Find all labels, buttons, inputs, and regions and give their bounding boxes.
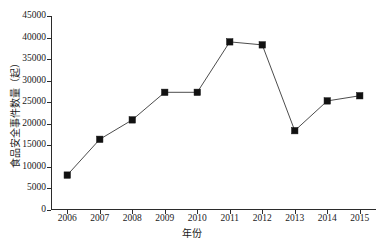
data-point-marker: [292, 127, 298, 133]
data-point-marker: [259, 42, 265, 48]
data-point-marker: [194, 89, 200, 95]
data-point-marker: [357, 93, 363, 99]
y-axis-tick-label: 40000: [12, 33, 46, 43]
y-axis-tick-label: 10000: [12, 162, 46, 172]
y-axis-tick-mark: [47, 188, 51, 189]
y-axis-tick-mark: [47, 16, 51, 17]
data-point-marker: [129, 117, 135, 123]
y-axis-tick-label: 30000: [12, 76, 46, 86]
y-axis-tick-mark: [47, 38, 51, 39]
data-point-marker: [227, 39, 233, 45]
data-point-marker: [324, 98, 330, 104]
x-axis-tick-labels: 2006200720082009201020112012201320142015: [51, 213, 376, 227]
y-axis-tick-labels: 0500010000150002000025000300003500040000…: [8, 0, 46, 250]
y-axis-tick-label: 35000: [12, 54, 46, 64]
y-axis-tick-label: 45000: [12, 11, 46, 21]
y-axis-tick-mark: [47, 81, 51, 82]
data-series-group: [51, 16, 376, 210]
x-axis-tick-label: 2015: [340, 213, 380, 224]
y-axis-tick-mark: [47, 59, 51, 60]
y-axis-tick-mark: [47, 145, 51, 146]
data-point-marker: [97, 136, 103, 142]
y-axis-tick-label: 20000: [12, 119, 46, 129]
line-chart: 食品安全事件数量（起） 0500010000150002000025000300…: [0, 0, 384, 250]
data-point-marker: [162, 89, 168, 95]
y-axis-tick-mark: [47, 124, 51, 125]
y-axis-tick-label: 5000: [12, 183, 46, 193]
y-axis-tick-label: 25000: [12, 97, 46, 107]
x-axis-title: 年份: [0, 228, 384, 240]
y-axis-tick-label: 0: [12, 205, 46, 215]
y-axis-tick-mark: [47, 167, 51, 168]
plot-area: [51, 16, 376, 210]
y-axis-tick-mark: [47, 210, 51, 211]
y-axis-tick-label: 15000: [12, 140, 46, 150]
series-line: [67, 42, 360, 175]
y-axis-tick-mark: [47, 102, 51, 103]
data-point-marker: [64, 172, 70, 178]
